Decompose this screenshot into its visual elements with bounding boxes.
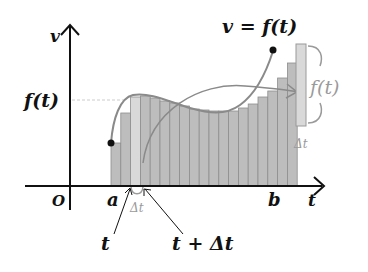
curve-start-point	[108, 140, 115, 147]
enlarged-strip	[296, 44, 306, 126]
bar	[209, 111, 219, 186]
bar	[229, 111, 239, 186]
curve-end-point	[270, 47, 277, 54]
bar	[189, 109, 199, 186]
strip-width-label: Δt	[293, 137, 308, 151]
bar	[278, 78, 288, 186]
bar	[111, 143, 121, 186]
brace-icon	[308, 46, 321, 66]
bar	[170, 103, 180, 186]
t-label: t	[101, 232, 110, 254]
a-label: a	[107, 189, 119, 210]
y-axis-label: v	[50, 26, 61, 46]
b-label: b	[268, 189, 281, 210]
bar	[219, 111, 229, 186]
riemann-bars	[111, 63, 297, 186]
f-of-t-axis-label: f(t)	[22, 89, 59, 111]
origin-label: O	[52, 192, 65, 210]
bar	[248, 104, 258, 186]
bar	[199, 110, 209, 186]
brace-icon-lower	[308, 103, 321, 123]
t-plus-dt-label: t + Δt	[172, 232, 234, 254]
bar	[160, 101, 170, 186]
highlighted-bar	[131, 97, 141, 186]
dt-bracket	[131, 187, 143, 194]
curve-label: v = f(t)	[222, 15, 297, 37]
bar	[121, 113, 131, 186]
bar	[180, 106, 190, 186]
riemann-sum-diagram: f(t) Δt v t O a b f(t) v = f(t) Δt t t +…	[0, 0, 368, 272]
x-axis-label: t	[308, 190, 316, 210]
bar	[150, 98, 160, 186]
t-dt-pointer-line	[145, 189, 183, 234]
bar	[238, 108, 248, 186]
dt-label: Δt	[129, 201, 144, 215]
strip-height-label: f(t)	[308, 76, 340, 98]
bar	[258, 97, 268, 186]
bar	[268, 91, 278, 186]
